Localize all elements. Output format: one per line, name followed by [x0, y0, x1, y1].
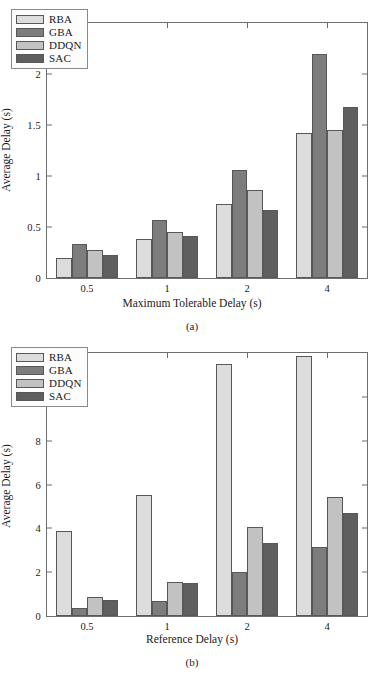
y-axis-tick-label: 0.5 [27, 222, 47, 233]
bar-sac-1 [183, 236, 199, 278]
y-axis-tick-mark [362, 484, 367, 485]
y-axis-tick-mark [47, 176, 52, 177]
bar-sac-0-5 [103, 255, 119, 278]
bar-gba-1 [152, 601, 168, 616]
y-axis-tick-label: 1.5 [27, 120, 47, 131]
plot-area-a: 00.511.522.50.5124 [46, 22, 368, 279]
legend-swatch-gba [16, 28, 44, 37]
figure-b: Average Delay (s) 0246810120.5124 Refere… [0, 338, 384, 675]
bar-ddqn-0-5 [87, 597, 103, 616]
y-axis-tick-mark [362, 176, 367, 177]
legend-swatch-rba [16, 15, 44, 24]
bar-ddqn-4 [327, 497, 343, 616]
bar-gba-0-5 [72, 244, 88, 278]
legend-item-ddqn: DDQN [16, 39, 82, 52]
legend-label: GBA [49, 27, 73, 38]
y-axis-tick-label: 2 [36, 69, 47, 80]
legend-item-ddqn: DDQN [16, 377, 82, 390]
bar-sac-4 [343, 513, 359, 616]
y-axis-tick-mark [362, 227, 367, 228]
legend-label: DDQN [49, 378, 82, 389]
legend-label: RBA [49, 14, 72, 25]
plot-area-b: 0246810120.5124 [46, 352, 368, 617]
y-axis-tick-mark [362, 440, 367, 441]
y-axis-tick-label: 4 [36, 523, 47, 534]
panel-caption-a: (a) [0, 320, 384, 332]
bar-rba-1 [136, 239, 152, 278]
x-axis-tick-mark [247, 23, 248, 28]
y-axis-tick-mark [47, 440, 52, 441]
legend-a: RBAGBADDQNSAC [11, 9, 88, 69]
y-axis-tick-mark [362, 572, 367, 573]
y-axis-tick-mark [47, 572, 52, 573]
bar-sac-2 [263, 210, 279, 278]
y-axis-tick-label: 0 [36, 611, 47, 622]
bar-gba-2 [232, 572, 248, 616]
bar-sac-1 [183, 583, 199, 616]
bar-gba-4 [312, 547, 328, 616]
y-axis-tick-label: 2 [36, 567, 47, 578]
legend-b: RBAGBADDQNSAC [11, 347, 88, 407]
x-axis-tick-mark [167, 23, 168, 28]
bar-rba-4 [296, 356, 312, 616]
y-axis-tick-label: 6 [36, 479, 47, 490]
y-axis-tick-mark [362, 74, 367, 75]
x-axis-tick-label-2: 2 [244, 283, 249, 294]
bar-ddqn-2 [247, 190, 263, 278]
legend-item-gba: GBA [16, 364, 82, 377]
y-axis-tick-mark [47, 528, 52, 529]
bar-gba-1 [152, 220, 168, 278]
x-axis-label-a: Maximum Tolerable Delay (s) [0, 297, 384, 309]
legend-item-rba: RBA [16, 13, 82, 26]
y-axis-tick-label: 8 [36, 435, 47, 446]
legend-label: SAC [49, 391, 71, 402]
y-axis-tick-mark [47, 484, 52, 485]
legend-label: SAC [49, 53, 71, 64]
y-axis-tick-label: 1 [36, 171, 47, 182]
y-axis-label-b: Average Delay (s) [0, 444, 12, 527]
y-axis-tick-mark [362, 125, 367, 126]
x-axis-tick-mark [167, 353, 168, 358]
legend-item-rba: RBA [16, 351, 82, 364]
bar-rba-1 [136, 495, 152, 616]
legend-label: RBA [49, 352, 72, 363]
legend-swatch-sac [16, 54, 44, 63]
y-axis-tick-mark [362, 396, 367, 397]
x-axis-tick-label-0-5: 0.5 [80, 283, 93, 294]
x-axis-tick-mark [327, 353, 328, 358]
legend-swatch-ddqn [16, 379, 44, 388]
bar-sac-2 [263, 543, 279, 616]
bar-sac-0-5 [103, 600, 119, 616]
bar-rba-0-5 [56, 258, 72, 278]
legend-swatch-sac [16, 392, 44, 401]
x-axis-tick-label-4: 4 [324, 283, 329, 294]
bar-gba-4 [312, 54, 328, 278]
bar-rba-4 [296, 133, 312, 278]
figure-a: Average Delay (s) 00.511.522.50.5124 Max… [0, 0, 384, 337]
bar-rba-2 [216, 364, 232, 616]
bar-sac-4 [343, 107, 359, 278]
bar-rba-2 [216, 204, 232, 278]
y-axis-tick-label: 0 [36, 273, 47, 284]
legend-label: DDQN [49, 40, 82, 51]
legend-item-gba: GBA [16, 26, 82, 39]
y-axis-tick-mark [47, 125, 52, 126]
bar-gba-2 [232, 170, 248, 278]
x-axis-tick-label-4: 4 [324, 621, 329, 632]
x-axis-tick-label-1: 1 [164, 621, 169, 632]
bar-ddqn-0-5 [87, 250, 103, 278]
bar-gba-0-5 [72, 608, 88, 616]
legend-swatch-rba [16, 353, 44, 362]
legend-item-sac: SAC [16, 390, 82, 403]
x-axis-tick-mark [247, 353, 248, 358]
y-axis-tick-mark [47, 227, 52, 228]
bar-ddqn-1 [167, 232, 183, 278]
x-axis-label-b: Reference Delay (s) [0, 633, 384, 645]
bar-ddqn-4 [327, 130, 343, 278]
legend-swatch-ddqn [16, 41, 44, 50]
x-axis-tick-label-2: 2 [244, 621, 249, 632]
y-axis-tick-mark [362, 528, 367, 529]
bar-ddqn-2 [247, 527, 263, 616]
x-axis-tick-mark [327, 23, 328, 28]
x-axis-tick-label-1: 1 [164, 283, 169, 294]
